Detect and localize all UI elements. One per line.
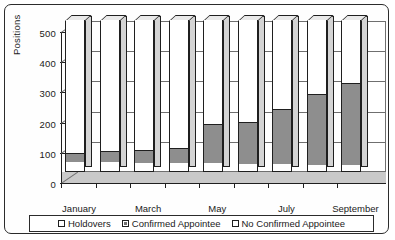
bar-segment-holdovers[interactable] [273, 164, 291, 171]
x-axis-tick [96, 183, 97, 188]
bar-column [307, 21, 327, 172]
y-axis [61, 32, 62, 183]
x-axis-tick [199, 183, 200, 188]
x-axis-tick [337, 183, 338, 188]
bar-segment-confirmed-appointee[interactable] [101, 151, 119, 162]
bar-segment-no-confirmed-appointee[interactable] [66, 20, 84, 153]
bar-segment-no-confirmed-appointee[interactable] [101, 20, 119, 151]
bar-side-face [292, 16, 299, 167]
bar-column [134, 21, 154, 172]
x-axis-label-january: January [62, 203, 96, 214]
bar-side-face [85, 16, 92, 167]
bar-side-face [120, 16, 127, 167]
x-axis-label-july: July [278, 203, 295, 214]
y-axis-tick-label: 500 [40, 28, 56, 39]
bar-segment-no-confirmed-appointee[interactable] [204, 20, 222, 124]
x-axis-label-march: March [135, 203, 161, 214]
y-axis-tick-label: 300 [40, 88, 56, 99]
bar-side-face [154, 16, 161, 167]
bar-segment-confirmed-appointee[interactable] [308, 94, 326, 165]
bar-segment-no-confirmed-appointee[interactable] [170, 20, 188, 148]
bar-column [65, 21, 85, 172]
bar-segment-confirmed-appointee[interactable] [170, 148, 188, 163]
bar-side-face [327, 16, 334, 167]
bar-segment-confirmed-appointee[interactable] [273, 109, 291, 165]
bar-side-face [223, 16, 230, 167]
bar-segment-no-confirmed-appointee[interactable] [135, 20, 153, 150]
x-axis-tick [130, 183, 131, 188]
bar-segment-confirmed-appointee[interactable] [342, 83, 360, 165]
legend-swatch-icon [232, 220, 239, 227]
legend-item-no-confirmed-appointee[interactable]: No Confirmed Appointee [232, 218, 346, 229]
x-axis-label-september: September [332, 203, 378, 214]
legend-label: No Confirmed Appointee [242, 218, 346, 229]
legend-item-holdovers[interactable]: Holdovers [58, 218, 111, 229]
bar-column [169, 21, 189, 172]
bar-column [341, 21, 361, 172]
y-axis-title: Positions [11, 15, 22, 55]
chart-frame: Positions 0100200300400500 JanuaryMarchM… [4, 4, 389, 234]
bar-segment-holdovers[interactable] [135, 163, 153, 171]
y-axis-tick-label: 400 [40, 58, 56, 69]
bar-segment-confirmed-appointee[interactable] [66, 153, 84, 162]
plot-area: 0100200300400500 JanuaryMarchMayJulySept… [61, 21, 386, 183]
bar-segment-confirmed-appointee[interactable] [135, 150, 153, 162]
bar-column [272, 21, 292, 172]
bar-segment-holdovers[interactable] [66, 162, 84, 171]
bar-column [100, 21, 120, 172]
bar-segment-holdovers[interactable] [204, 163, 222, 171]
x-axis-tick [234, 183, 235, 188]
legend-label: Confirmed Appointee [132, 218, 221, 229]
bar-side-face [361, 16, 368, 167]
legend-swatch-icon [122, 220, 129, 227]
bar-segment-holdovers[interactable] [239, 164, 257, 171]
bar-segment-no-confirmed-appointee[interactable] [342, 20, 360, 83]
x-axis-tick [303, 183, 304, 188]
bar-segment-no-confirmed-appointee[interactable] [239, 20, 257, 122]
x-axis-tick [268, 183, 269, 188]
bar-segment-no-confirmed-appointee[interactable] [273, 20, 291, 108]
x-axis-label-may: May [208, 203, 226, 214]
bar-segment-holdovers[interactable] [342, 165, 360, 171]
bar-segment-holdovers[interactable] [308, 165, 326, 171]
y-axis-tick-label: 0 [51, 179, 56, 190]
x-axis-tick [165, 183, 166, 188]
bar-side-face [189, 16, 196, 167]
bar-segment-confirmed-appointee[interactable] [239, 122, 257, 164]
bar-segment-no-confirmed-appointee[interactable] [308, 20, 326, 94]
bar-segment-holdovers[interactable] [170, 163, 188, 171]
bar-segment-holdovers[interactable] [101, 162, 119, 171]
bar-column [203, 21, 223, 172]
legend-item-confirmed-appointee[interactable]: Confirmed Appointee [122, 218, 221, 229]
legend-swatch-icon [58, 220, 65, 227]
y-axis-tick-label: 200 [40, 118, 56, 129]
y-axis-tick-label: 100 [40, 148, 56, 159]
bar-column [238, 21, 258, 172]
bar-side-face [258, 16, 265, 167]
plot-floor [61, 172, 386, 183]
bar-segment-confirmed-appointee[interactable] [204, 124, 222, 163]
chart-legend: HoldoversConfirmed AppointeeNo Confirmed… [29, 215, 374, 232]
legend-label: Holdovers [68, 218, 111, 229]
x-axis-tick [61, 183, 62, 188]
